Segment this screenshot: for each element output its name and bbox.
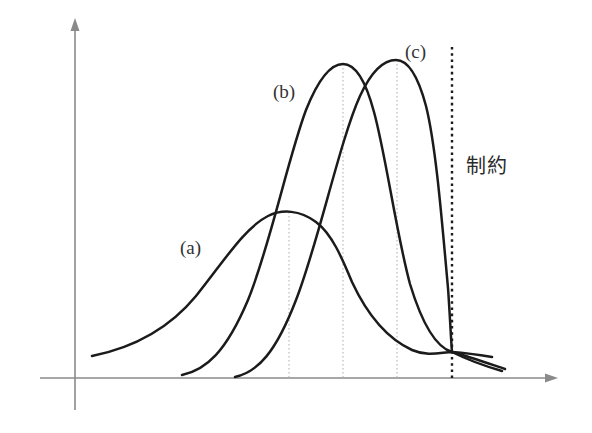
- constraint-label: 制約: [466, 156, 508, 176]
- y-axis-arrow-icon: [71, 18, 80, 31]
- x-axis-arrow-icon: [545, 374, 558, 383]
- figure-container: (a) (b) (c) 制約: [0, 0, 592, 433]
- diagram-canvas: [0, 0, 592, 433]
- curve-c-label: (c): [405, 42, 426, 61]
- curve-b-label: (b): [273, 82, 295, 101]
- curve-a-label: (a): [180, 238, 201, 257]
